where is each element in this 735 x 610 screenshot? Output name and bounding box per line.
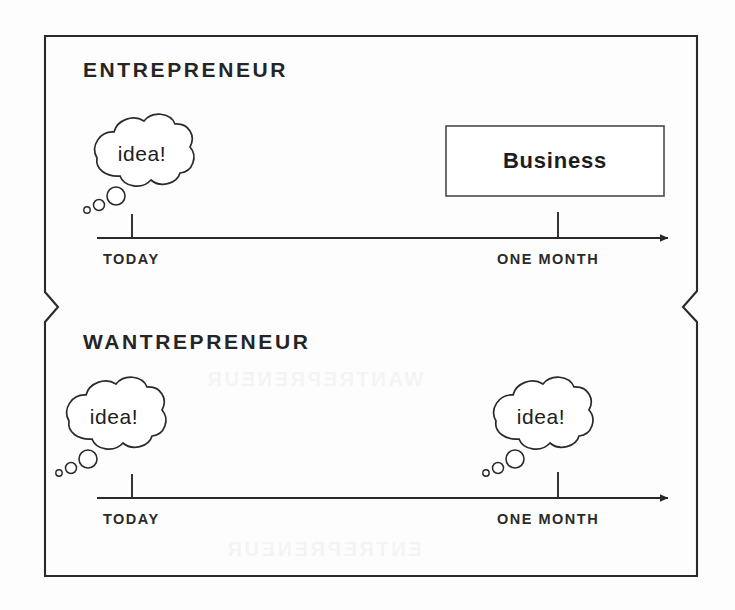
thought-bubble-label-wantrepreneur-today: idea! [64, 405, 164, 429]
timeline-tick-label-one-month-entrepreneur: ONE MONTH [497, 251, 599, 267]
thought-bubble-label-wantrepreneur-one-month: idea! [491, 405, 591, 429]
timeline-tick-label-today-entrepreneur: TODAY [103, 251, 160, 267]
timeline-tick-label-one-month-wantrepreneur: ONE MONTH [497, 511, 599, 527]
timeline-tick-label-today-wantrepreneur: TODAY [103, 511, 160, 527]
panel-heading-entrepreneur: ENTREPRENEUR [83, 58, 288, 82]
thought-bubble-label-entrepreneur-today: idea! [92, 142, 192, 166]
diagram-canvas: WANTREPRENEUR ENTREPRENEUR [0, 0, 735, 610]
outcome-box-label-business: Business [446, 148, 664, 174]
panel-heading-wantrepreneur: WANTREPRENEUR [83, 330, 310, 354]
diagram-frame-border [45, 36, 697, 576]
